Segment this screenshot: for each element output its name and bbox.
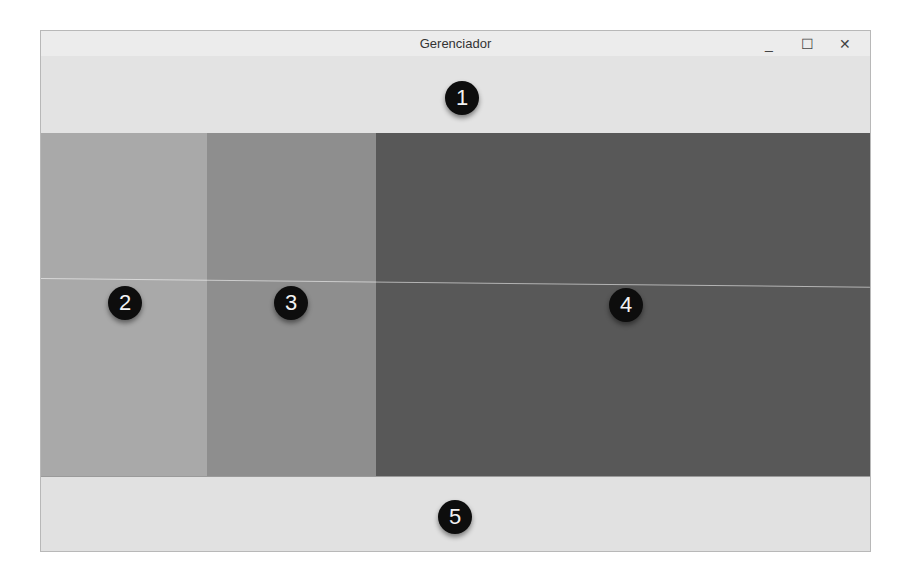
region-badge-2: 2 — [108, 286, 142, 320]
close-icon: ✕ — [839, 36, 851, 52]
top-region: 1 — [41, 56, 870, 133]
title-bar[interactable]: Gerenciador _ ☐ ✕ — [41, 31, 870, 57]
region-badge-5: 5 — [438, 500, 472, 534]
region-badge-3: 3 — [274, 286, 308, 320]
window-title: Gerenciador — [41, 36, 870, 51]
main-content-region: 4 — [376, 133, 870, 476]
close-button[interactable]: ✕ — [826, 33, 864, 55]
middle-panel-region: 3 — [207, 133, 376, 476]
maximize-icon: ☐ — [801, 36, 814, 52]
minimize-icon: _ — [765, 36, 773, 52]
app-window: Gerenciador _ ☐ ✕ 1 2 3 4 5 — [40, 30, 871, 552]
region-badge-4: 4 — [609, 288, 643, 322]
minimize-button[interactable]: _ — [750, 33, 788, 55]
bottom-region: 5 — [41, 476, 870, 551]
window-controls: _ ☐ ✕ — [750, 33, 864, 55]
left-panel-region: 2 — [41, 133, 207, 476]
region-badge-1: 1 — [445, 81, 479, 115]
maximize-button[interactable]: ☐ — [788, 33, 826, 55]
